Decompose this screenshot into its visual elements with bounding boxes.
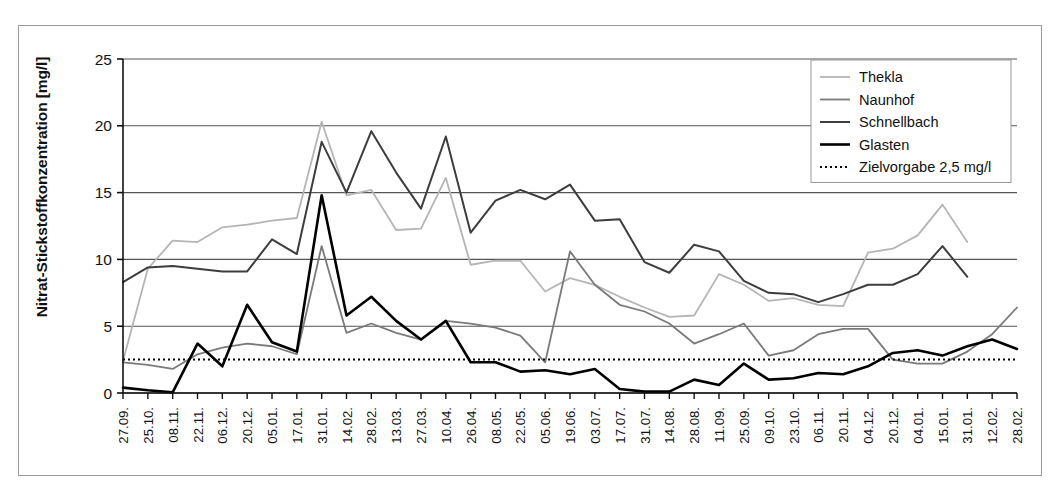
x-tick-label: 25.10. — [141, 407, 156, 444]
x-tick-label: 22.05. — [513, 407, 528, 444]
series-line-glasten — [123, 195, 1017, 392]
x-tick-label: 28.02. — [364, 407, 379, 444]
x-tick-label: 04.01. — [911, 407, 926, 444]
x-tick-label: 03.07. — [588, 407, 603, 444]
chart-canvas: 0510152025 27.09.25.10.08.11.22.11.06.12… — [0, 0, 1058, 498]
x-tick-label: 17.01. — [290, 407, 305, 444]
x-tick-label: 22.11. — [191, 407, 206, 443]
y-tick-label: 5 — [103, 318, 112, 335]
x-tick-label: 05.01. — [265, 407, 280, 444]
x-tick-label: 06.11. — [811, 407, 826, 443]
y-axis-ticks: 0510152025 — [95, 51, 123, 402]
x-tick-label: 20.12. — [240, 407, 255, 444]
x-tick-label: 31.01. — [315, 407, 330, 444]
x-tick-label: 31.07. — [638, 407, 653, 444]
x-tick-label: 27.09. — [116, 407, 131, 444]
x-tick-label: 27.03. — [414, 407, 429, 444]
x-tick-label: 20.11. — [836, 407, 851, 443]
x-tick-label: 31.01. — [960, 407, 975, 444]
x-tick-label: 05.06. — [538, 407, 553, 444]
x-tick-label: 13.03. — [389, 407, 404, 444]
x-tick-label: 14.02. — [340, 407, 355, 444]
x-tick-label: 28.02. — [1010, 407, 1025, 444]
x-tick-label: 15.01. — [936, 407, 951, 444]
x-tick-label: 10.04. — [439, 407, 454, 444]
legend-label: Naunhof — [859, 92, 915, 108]
x-tick-label: 08.05. — [489, 407, 504, 444]
x-tick-label: 23.10. — [787, 407, 802, 444]
x-tick-label: 08.11. — [166, 407, 181, 443]
y-tick-label: 0 — [103, 385, 112, 402]
x-tick-label: 25.09. — [737, 407, 752, 444]
y-tick-label: 10 — [95, 251, 113, 268]
line-chart-svg: 0510152025 27.09.25.10.08.11.22.11.06.12… — [0, 0, 1058, 498]
x-tick-label: 14.08. — [662, 407, 677, 444]
x-tick-label: 28.08. — [687, 407, 702, 444]
legend-label: Zielvorgabe 2,5 mg/l — [859, 159, 991, 175]
x-tick-label: 12.02. — [985, 407, 1000, 444]
y-tick-label: 15 — [95, 184, 112, 201]
x-tick-label: 26.04. — [464, 407, 479, 444]
legend: TheklaNaunhofSchnellbachGlastenZielvorga… — [811, 60, 1011, 183]
x-tick-label: 17.07. — [613, 407, 628, 444]
x-tick-label: 20.12. — [886, 407, 901, 444]
series-line-naunhof — [123, 246, 1017, 369]
x-tick-label: 19.06. — [563, 407, 578, 444]
y-tick-label: 20 — [95, 117, 113, 134]
x-tick-label: 11.09. — [712, 407, 727, 443]
x-tick-label: 04.12. — [861, 407, 876, 444]
legend-label: Thekla — [859, 69, 904, 85]
x-axis-ticks: 27.09.25.10.08.11.22.11.06.12.20.12.05.0… — [116, 393, 1025, 444]
y-tick-label: 25 — [95, 51, 112, 68]
legend-label: Schnellbach — [859, 114, 939, 130]
x-tick-label: 09.10. — [762, 407, 777, 444]
x-tick-label: 06.12. — [215, 407, 230, 444]
legend-label: Glasten — [859, 137, 909, 153]
